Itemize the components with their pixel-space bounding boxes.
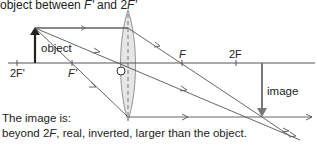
- diagram-title: object between F' and 2F': [0, 0, 137, 11]
- label-2f: 2F: [229, 49, 242, 60]
- title-prefix: object between: [0, 0, 84, 12]
- title-f-prime: F': [84, 0, 94, 12]
- image-arrow: [257, 63, 267, 117]
- label-2f-prime-text: 2F': [10, 67, 25, 79]
- ray-center: [35, 28, 300, 140]
- title-middle: and 2: [94, 0, 127, 12]
- caption-suffix: , real, inverted, larger than the object…: [56, 127, 247, 139]
- object-arrow: [30, 27, 40, 63]
- caption-line-2: beyond 2F, real, inverted, larger than t…: [2, 128, 247, 140]
- image-label: image: [267, 86, 298, 98]
- caption-line-1: The image is:: [2, 113, 71, 125]
- lens-ray-diagram: [0, 0, 317, 147]
- caption-prefix: beyond 2: [2, 127, 49, 139]
- label-f: F: [179, 49, 186, 60]
- label-f-prime: F': [68, 68, 77, 79]
- label-2f-prime: 2F': [10, 68, 25, 79]
- title-f-prime-2: F': [127, 0, 137, 12]
- optical-center-icon: [117, 67, 125, 75]
- object-label: object: [41, 43, 72, 55]
